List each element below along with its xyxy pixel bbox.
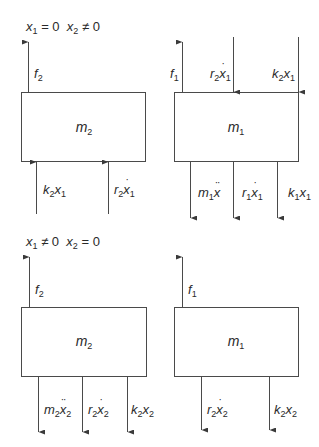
force-label-k2x2: k2x2	[131, 403, 154, 419]
mass-label-m1-top: m1	[228, 120, 245, 137]
force-label-k2x1: k2x1	[272, 67, 295, 83]
mass-label-m2-bottom: m2	[76, 334, 93, 351]
force-label-k2x2: k2x2	[274, 403, 297, 419]
force-label-f1: f1	[170, 67, 179, 83]
force-label-r2x1dot: r2x1	[210, 67, 231, 83]
force-label-k2x1: k2x1	[43, 183, 66, 199]
force-label-f1: f1	[188, 283, 197, 299]
force-label-f2: f2	[35, 283, 44, 299]
force-label-k1x1: k1x1	[288, 186, 311, 202]
mass-label-m2-top: m2	[76, 120, 93, 137]
force-label-r2x1dot: r2x1	[114, 183, 135, 199]
relation: = 0	[38, 19, 60, 34]
condition-label-bottom: x1 ≠ 0 x2 = 0	[26, 235, 100, 251]
force-label-m1xddot: m1x	[198, 186, 220, 202]
relation: = 0	[78, 234, 100, 249]
relation: ≠ 0	[38, 234, 60, 249]
force-label-f2: f2	[34, 67, 43, 83]
mass-label-m1-bottom: m1	[228, 334, 245, 351]
condition-label-top: x1 = 0 x2 ≠ 0	[26, 20, 100, 36]
relation: ≠ 0	[78, 19, 100, 34]
force-label-r1x1dot: r1x1	[242, 186, 263, 202]
force-label-r2x2dot: r2x2	[88, 403, 109, 419]
force-label-r2x2dot: r2x2	[207, 403, 228, 419]
force-label-m2x2ddot: m2x2	[44, 403, 71, 419]
